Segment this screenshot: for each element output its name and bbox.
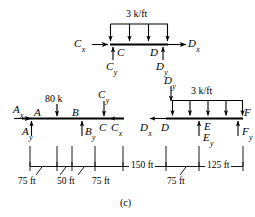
right-node-d-label: D (161, 122, 169, 133)
dimension-label-4: 150 ft (129, 161, 155, 171)
dimension-label-1: 75 ft (18, 177, 36, 187)
left-80k-load-label: 80 k (45, 94, 63, 104)
left-node-b-label: B (72, 107, 79, 118)
top-dx-force-label: Dx (188, 38, 199, 52)
right-node-f-label: F (244, 107, 251, 118)
figure-caption: (c) (120, 198, 131, 208)
left-ax-force-label: Ax (13, 104, 23, 118)
top-node-c-label: C (117, 47, 124, 58)
dimension-label-2: 50 ft (57, 177, 75, 187)
left-ay-force-label: Ay (22, 126, 32, 140)
left-cy-force-label: Cy (98, 89, 109, 103)
top-node-d-label: D (150, 47, 158, 58)
right-fy-force-label: Fy (242, 126, 252, 140)
right-ey-force-label: Ey (203, 132, 213, 146)
right-distributed-load-label: 3 k/ft (191, 86, 212, 96)
top-dy-force-label: Dy (156, 61, 167, 75)
top-cy-force-label: Cy (106, 61, 117, 75)
top-member-group (92, 24, 186, 60)
left-cx-force-label: Cx (111, 122, 122, 136)
free-body-diagram-figure: 3 k/ft Cx C Cy D Dx Dy Dy Ax A Ay 80 k B… (0, 0, 255, 217)
dimension-label-3: 75 ft (92, 177, 110, 187)
dimension-label-5: 75 ft (167, 177, 185, 187)
left-node-c-label: C (99, 122, 106, 133)
transfer-dy-force-label: Dy (164, 75, 175, 89)
top-cx-force-label: Cx (74, 38, 85, 52)
top-distributed-load-label: 3 k/ft (126, 9, 147, 19)
left-node-a-label: A (34, 107, 41, 118)
dimension-label-6: 125 ft (205, 161, 231, 171)
left-by-force-label: By (85, 126, 95, 140)
right-dx-force-label: Dx (140, 122, 151, 136)
